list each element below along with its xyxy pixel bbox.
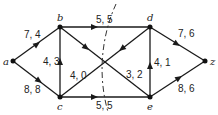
edge-label-b-d: 5, 5 — [96, 14, 113, 25]
node-c — [58, 95, 63, 100]
edge-label-a-c: 8, 8 — [24, 84, 41, 95]
edge-label-b-e: 3, 2 — [126, 69, 143, 80]
node-label-b: b — [57, 12, 63, 23]
node-label-z: z — [209, 56, 216, 67]
node-b — [58, 25, 63, 30]
node-d — [148, 25, 153, 30]
flow-network-diagram: a b c d e z 7, 4 8, 8 4, 3 5, 5 3, 2 4, … — [0, 0, 218, 115]
arrow-icon-e-z — [174, 73, 183, 82]
edge-label-c-e: 5, 5 — [96, 100, 113, 111]
node-z — [203, 59, 208, 64]
node-a — [11, 59, 16, 64]
edge-label-d-z: 7, 6 — [178, 28, 195, 39]
edge-label-a-b: 7, 4 — [24, 29, 41, 40]
node-label-d: d — [147, 12, 153, 23]
node-label-e: e — [147, 101, 153, 112]
node-label-a: a — [3, 56, 9, 67]
node-label-c: c — [57, 101, 63, 112]
edge-label-e-z: 8, 6 — [178, 83, 195, 94]
edge-label-c-b: 4, 3 — [43, 56, 60, 67]
arrow-icon-e-d — [147, 62, 153, 69]
node-e — [148, 95, 153, 100]
edge-label-e-d: 4, 1 — [154, 57, 171, 68]
edge-label-d-c: 4, 0 — [70, 70, 87, 81]
